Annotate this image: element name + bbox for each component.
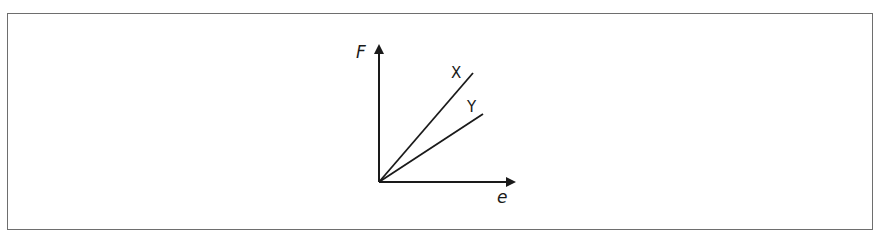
y-axis-label: F <box>356 42 366 62</box>
line-y <box>379 114 483 182</box>
force-extension-diagram: F e X Y <box>0 0 879 243</box>
line-y-label: Y <box>466 98 477 116</box>
line-x <box>379 73 473 182</box>
line-x-label: X <box>451 64 461 82</box>
x-axis-label: e <box>497 187 507 207</box>
